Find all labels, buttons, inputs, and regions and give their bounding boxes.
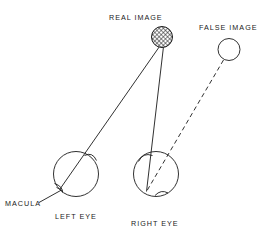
real-ray-to-right-eye bbox=[147, 47, 164, 192]
macula-label: MACULA bbox=[5, 200, 41, 207]
diplopia-diagram: REAL IMAGE FALSE IMAGE MACULA LEFT EYE R… bbox=[0, 0, 268, 235]
false-ray-to-right-eye bbox=[147, 60, 224, 192]
left-eye-group bbox=[54, 152, 99, 197]
real-image-circle bbox=[152, 27, 173, 48]
left-eye-globe bbox=[54, 152, 99, 197]
real-ray-to-left-eye bbox=[60, 47, 160, 190]
real-image-label: REAL IMAGE bbox=[109, 14, 163, 21]
false-image-circle bbox=[218, 39, 240, 61]
right-eye-group bbox=[134, 152, 179, 197]
left-eye-label: LEFT EYE bbox=[55, 213, 97, 220]
right-eye-macula bbox=[155, 191, 168, 195]
macula-leader-line bbox=[39, 190, 62, 203]
false-image-label: FALSE IMAGE bbox=[199, 24, 258, 31]
right-eye-label: RIGHT EYE bbox=[131, 220, 179, 227]
